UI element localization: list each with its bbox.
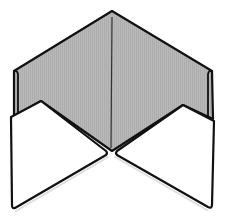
origami-diagram bbox=[0, 0, 230, 224]
